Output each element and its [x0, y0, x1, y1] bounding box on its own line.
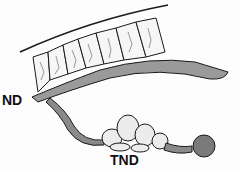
diagram-canvas: ND TND	[0, 0, 239, 171]
tnd-lobes	[102, 115, 168, 152]
tnd-bulb	[193, 135, 215, 157]
tnd-branch	[46, 98, 104, 145]
tnd-stalk	[164, 143, 192, 153]
label-tnd: TND	[110, 153, 139, 167]
duct-illustration	[0, 0, 239, 171]
label-nd: ND	[2, 93, 22, 107]
